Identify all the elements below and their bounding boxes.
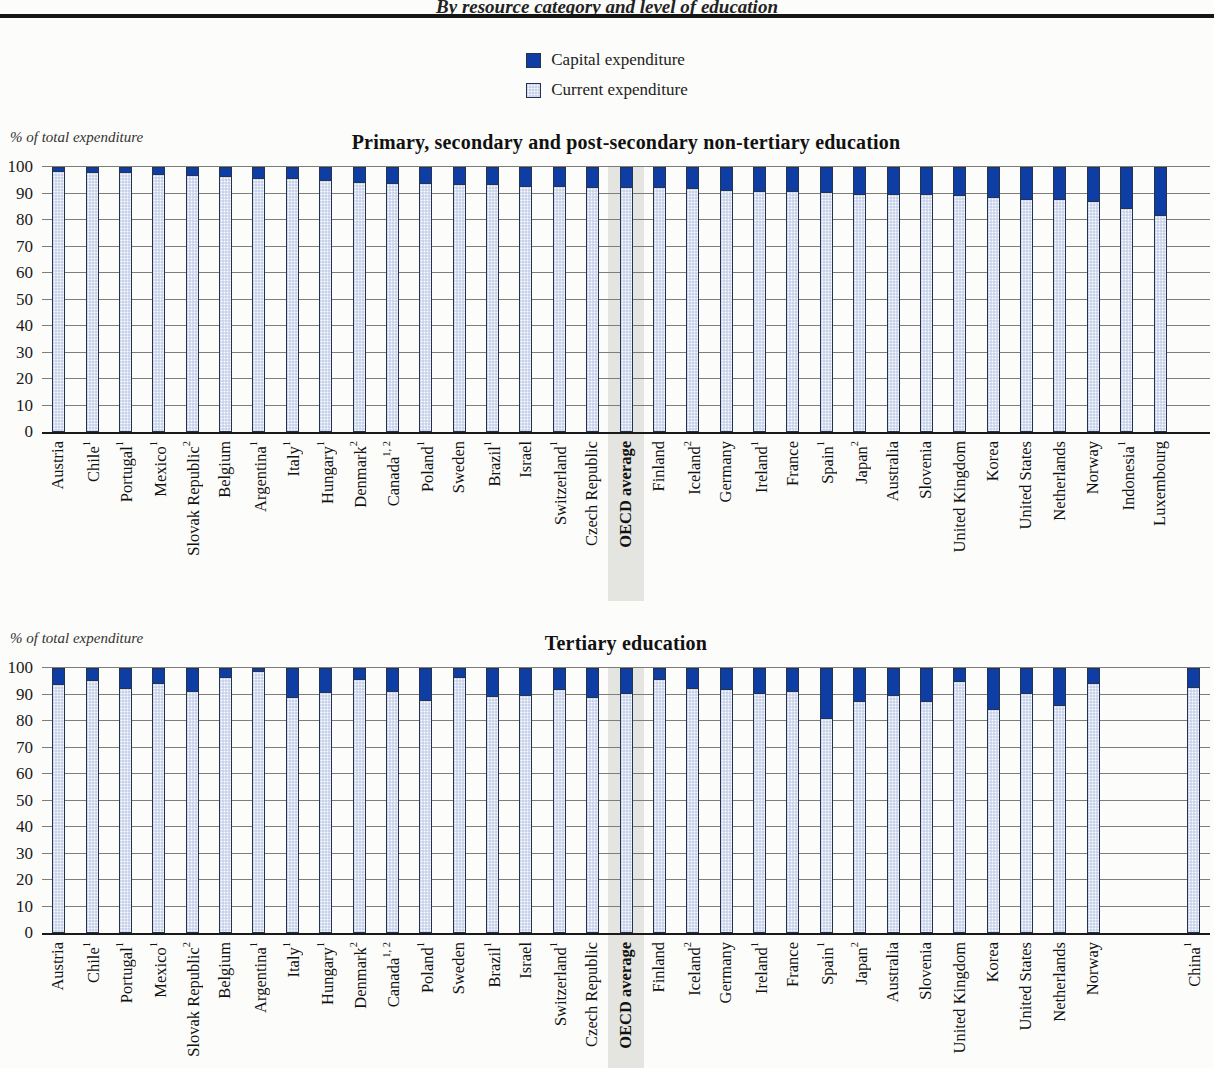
bar-france — [786, 167, 799, 432]
plot-area — [42, 668, 1210, 935]
x-label: OECD average — [618, 434, 635, 548]
bar-slot — [376, 167, 409, 432]
x-label-slot: France — [776, 434, 809, 603]
x-label-slot: Slovak Republic2 — [176, 935, 209, 1068]
legend-label-capital: Capital expenditure — [551, 50, 685, 70]
x-label-slot: Czech Republic — [576, 935, 609, 1068]
x-label: Denmark2 — [349, 935, 369, 1009]
bar-slot — [776, 167, 809, 432]
current-segment — [620, 187, 633, 432]
bar-italy — [286, 668, 299, 933]
x-label-slot: Argentina1 — [242, 434, 275, 603]
capital-segment — [86, 668, 99, 680]
x-label: Korea — [985, 434, 1002, 481]
x-label: Netherlands — [1052, 434, 1069, 521]
bar-germany — [720, 167, 733, 432]
plot-area — [42, 167, 1210, 434]
y-axis-ticks: 0102030405060708090100 — [0, 668, 36, 933]
legend-item-capital: Capital expenditure — [526, 50, 687, 70]
bar-japan — [853, 668, 866, 933]
capital-segment — [286, 167, 299, 178]
current-segment — [753, 693, 766, 933]
capital-segment — [553, 167, 566, 186]
x-label: Australia — [885, 434, 902, 501]
bar-netherlands — [1053, 167, 1066, 432]
header-divider — [0, 14, 1214, 18]
x-label-slot — [1110, 935, 1143, 1068]
current-segment — [519, 695, 532, 934]
bar-slot — [342, 167, 375, 432]
capital-segment — [353, 167, 366, 182]
bar-slot — [109, 167, 142, 432]
capital-segment — [1053, 167, 1066, 199]
current-segment — [1087, 201, 1100, 432]
y-tick-label: 100 — [0, 159, 33, 175]
current-segment — [1020, 693, 1033, 933]
capital-segment — [586, 167, 599, 187]
bar-slot — [1010, 167, 1043, 432]
current-segment — [152, 683, 165, 933]
x-label: Sweden — [451, 935, 468, 994]
x-label: Luxembourg — [1152, 434, 1169, 526]
capital-segment — [1154, 167, 1167, 215]
x-label-slot: Germany — [710, 434, 743, 603]
bar-slot — [743, 167, 776, 432]
bar-slot — [676, 668, 709, 933]
current-segment — [987, 709, 1000, 933]
x-label-slot: Switzerland1 — [543, 434, 576, 603]
y-tick-label: 90 — [0, 186, 33, 202]
bar-china — [1187, 668, 1200, 933]
current-segment — [586, 187, 599, 432]
capital-segment — [119, 668, 132, 688]
y-tick-label: 90 — [0, 687, 33, 703]
current-segment — [686, 188, 699, 432]
bar-slot — [943, 668, 976, 933]
bar-slovak-republic — [186, 668, 199, 933]
x-label-slot: Argentina1 — [242, 935, 275, 1068]
current-segment — [119, 688, 132, 933]
capital-segment — [620, 668, 633, 693]
bar-slovenia — [920, 668, 933, 933]
current-segment — [252, 671, 265, 933]
y-axis-ticks: 0102030405060708090100 — [0, 167, 36, 432]
bar-slot — [509, 668, 542, 933]
y-tick-label: 100 — [0, 660, 33, 676]
bar-brazil — [486, 167, 499, 432]
bar-slot — [977, 668, 1010, 933]
legend-item-current: Current expenditure — [526, 80, 687, 100]
x-label: Australia — [885, 935, 902, 1002]
x-label-slot: Denmark2 — [342, 935, 375, 1068]
capital-segment — [486, 668, 499, 696]
x-label: OECD average — [618, 935, 635, 1049]
bar-slot — [1143, 668, 1176, 933]
bar-slot — [309, 668, 342, 933]
x-label-slot: Czech Republic — [576, 434, 609, 603]
capital-segment — [920, 167, 933, 194]
x-label-slot: Finland — [643, 434, 676, 603]
bar-slot — [576, 167, 609, 432]
capital-segment — [486, 167, 499, 184]
capital-segment — [186, 668, 199, 691]
x-label: Israel — [518, 434, 535, 478]
x-label-slot — [1177, 434, 1210, 603]
bar-slot — [609, 668, 642, 933]
bar-slot — [776, 668, 809, 933]
bar-slot — [42, 668, 75, 933]
x-label: Norway — [1085, 935, 1102, 995]
current-segment — [453, 677, 466, 933]
x-label: Finland — [651, 935, 668, 992]
current-segment — [853, 194, 866, 433]
current-segment — [586, 697, 599, 933]
capital-segment — [519, 668, 532, 695]
y-tick-label: 80 — [0, 212, 33, 228]
x-label-slot: Netherlands — [1043, 935, 1076, 1068]
bar-israel — [519, 167, 532, 432]
current-segment — [1053, 199, 1066, 432]
x-label: Mexico1 — [149, 935, 169, 998]
x-label-slot: Poland1 — [409, 935, 442, 1068]
y-tick-label: 50 — [0, 292, 33, 308]
bar-slot — [843, 668, 876, 933]
bar-united-states — [1020, 167, 1033, 432]
bar-slot — [42, 167, 75, 432]
x-label: Poland1 — [416, 935, 436, 993]
